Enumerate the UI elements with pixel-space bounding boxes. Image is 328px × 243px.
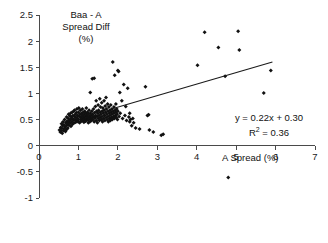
data-point <box>138 127 142 131</box>
data-point <box>134 126 138 130</box>
x-tick-label: 0 <box>36 151 41 162</box>
y-tick-label: -0.5 <box>17 166 33 177</box>
data-point <box>236 29 240 33</box>
x-tick-label: 7 <box>312 151 317 162</box>
r-squared-prefix: R <box>249 127 256 138</box>
x-tick-label: 1 <box>76 151 81 162</box>
x-tick-label: 3 <box>155 151 160 162</box>
data-point <box>226 176 230 180</box>
y-tick-label: -1 <box>25 192 33 203</box>
data-point <box>113 73 117 77</box>
x-tick-label: 4 <box>194 151 199 162</box>
y-tick-label: 1.5 <box>20 62 33 73</box>
data-point <box>126 86 130 90</box>
regression-line <box>113 62 272 109</box>
data-point <box>269 68 273 72</box>
y-axis-title-line-3: (%) <box>79 33 94 44</box>
y-tick-label: 2 <box>28 36 33 47</box>
data-point <box>120 99 124 103</box>
data-point <box>121 117 125 121</box>
y-axis-title-line-2: Spread Diff <box>62 21 109 32</box>
scatter-chart: -1-0.500.511.522.501234567 Baa - A Sprea… <box>0 0 328 243</box>
y-axis-title: Baa - A Spread Diff (%) <box>52 9 120 45</box>
data-point <box>111 60 115 64</box>
y-tick-label: 1 <box>28 88 33 99</box>
data-point <box>237 48 241 52</box>
data-point <box>114 102 118 106</box>
regression-equation: y = 0.22x + 0.30 <box>216 112 322 124</box>
data-point <box>147 128 151 132</box>
data-point <box>143 85 147 89</box>
data-point <box>118 90 122 94</box>
data-point <box>88 90 92 94</box>
data-point <box>94 99 98 103</box>
data-point <box>125 119 129 123</box>
data-point <box>196 63 200 67</box>
y-tick-label: 0.5 <box>20 114 33 125</box>
data-point <box>203 30 207 34</box>
x-axis-title: A Spread (%) <box>222 152 279 164</box>
r-squared-value: R2 = 0.36 <box>216 124 322 139</box>
r-squared-number: = 0.36 <box>260 127 289 138</box>
data-point <box>104 96 108 100</box>
data-point <box>123 113 127 117</box>
data-point <box>122 83 126 87</box>
y-tick-label: 2.5 <box>20 9 33 20</box>
data-point <box>262 91 266 95</box>
x-tick-label: 2 <box>115 151 120 162</box>
regression-annotation: y = 0.22x + 0.30 R2 = 0.36 <box>216 112 322 139</box>
y-axis-title-line-1: Baa - A <box>70 9 101 20</box>
data-point <box>132 121 136 125</box>
regression-line-group <box>113 62 272 109</box>
data-point <box>98 97 102 101</box>
data-point <box>216 45 220 49</box>
y-tick-label: 0 <box>28 140 33 151</box>
data-point <box>130 124 134 128</box>
data-point <box>151 130 155 134</box>
data-point <box>128 111 132 115</box>
